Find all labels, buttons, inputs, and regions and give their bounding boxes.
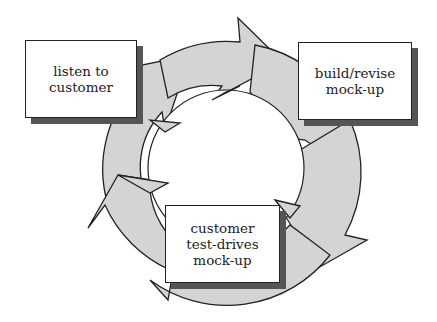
step-line: customer <box>191 220 255 236</box>
step-box-listen: listen to customer <box>25 40 137 118</box>
step-line: customer <box>49 79 113 95</box>
step-line: build/revise <box>315 65 395 81</box>
step-line: mock-up <box>326 81 384 97</box>
step-box-build: build/revise mock-up <box>298 42 412 120</box>
step-box-test-drive: customer test-drives mock-up <box>165 205 280 283</box>
step-line: listen to <box>53 63 109 79</box>
step-line: test-drives <box>186 236 258 252</box>
step-line: mock-up <box>193 252 251 268</box>
